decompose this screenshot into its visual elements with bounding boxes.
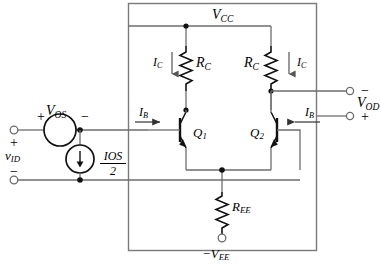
- sign-vod-plus: +: [361, 110, 369, 124]
- sign-vos-minus: −: [81, 110, 89, 124]
- label-q1: Q1: [193, 126, 207, 141]
- label-ios-half: IOS 2: [100, 150, 126, 177]
- label-vos: VOS: [46, 104, 66, 120]
- terminal-vod-minus[interactable]: [346, 87, 353, 94]
- resistor-rc-right: [265, 46, 277, 91]
- label-ib-left: IB: [139, 106, 148, 120]
- label-ree: REE: [232, 200, 251, 215]
- vcc-rail: [129, 26, 272, 46]
- label-ios-denominator: 2: [100, 165, 126, 177]
- circuit-schematic: [0, 0, 381, 266]
- label-ic-left: IC: [153, 56, 162, 70]
- amplifier-boundary-box: [129, 4, 317, 251]
- terminal-vee[interactable]: [218, 234, 226, 242]
- emitter-tail-wires: [186, 170, 271, 192]
- label-ios-numerator: IOS: [100, 150, 126, 162]
- label-rc-right: RC: [244, 56, 259, 72]
- vcc-junction-dot: [183, 23, 188, 28]
- transistor-q2: [271, 91, 300, 170]
- label-q2: Q2: [250, 126, 264, 141]
- sign-vos-plus: +: [37, 110, 45, 124]
- terminal-vid-plus[interactable]: [10, 126, 18, 134]
- label-rc-left: RC: [196, 56, 211, 72]
- emitter-tail-junction-dot: [219, 167, 225, 173]
- resistor-rc-left: [180, 46, 192, 91]
- transistor-q1: [148, 110, 186, 170]
- ios-bottom-junction-dot: [77, 177, 83, 183]
- terminal-vod-plus[interactable]: [346, 112, 353, 119]
- sign-vid-minus: −: [10, 165, 18, 179]
- label-vcc: VCC: [212, 8, 233, 24]
- label-vid: vID: [5, 149, 20, 164]
- label-vee: −VEE: [202, 247, 230, 262]
- sign-vid-plus: +: [10, 136, 18, 150]
- sign-vod-minus: −: [361, 84, 369, 98]
- label-ib-right: IB: [305, 106, 314, 120]
- figure-canvas: VCC IC RC RC IC IB IB Q1 Q2 REE −VEE VOS: [0, 0, 381, 266]
- resistor-ree: [216, 192, 228, 234]
- label-ic-right: IC: [297, 56, 306, 70]
